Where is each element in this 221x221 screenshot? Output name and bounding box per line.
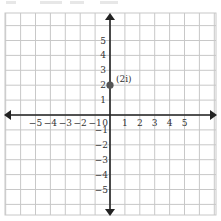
x-tick-label: 5 [182, 118, 188, 128]
x-tick-label: −3 [59, 118, 73, 128]
x-tick-label: −4 [44, 118, 58, 128]
y-tick-label: −3 [95, 155, 109, 165]
point-label: (2i) [116, 74, 132, 84]
x-tick-label: −5 [29, 118, 43, 128]
x-tick-label: 2 [137, 118, 143, 128]
x-tick-label: 4 [167, 118, 173, 128]
coordinate-plane: −5−4−3−2−1012345 12345−1−2−3−4−5 (2i) [0, 0, 221, 221]
point-marker [106, 82, 113, 89]
y-tick-label: 5 [100, 36, 106, 46]
y-tick-label: −2 [95, 140, 108, 150]
cropped-header-text [6, 1, 118, 4]
y-tick-label: 3 [100, 65, 106, 75]
x-tick-label: 1 [122, 118, 128, 128]
y-tick-label: 4 [100, 50, 106, 60]
y-tick-label: 1 [100, 95, 106, 105]
x-tick-label: −2 [74, 118, 87, 128]
x-tick-label: 3 [152, 118, 158, 128]
y-tick-label: −5 [95, 185, 109, 195]
x-axis-tick-labels: −5−4−3−2−1012345 [29, 118, 188, 128]
y-tick-label: −4 [95, 170, 109, 180]
y-axis-up-arrow-icon [105, 13, 115, 20]
y-tick-label: −1 [95, 125, 108, 135]
y-tick-label: 2 [100, 80, 106, 90]
